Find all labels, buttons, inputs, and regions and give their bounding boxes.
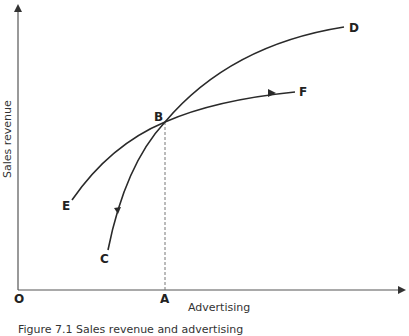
label-c: C — [100, 252, 109, 266]
label-f: F — [299, 85, 307, 99]
curve-ef-arrow-icon — [268, 89, 276, 97]
curve-ef — [72, 92, 295, 200]
label-d: D — [349, 21, 359, 35]
label-e: E — [62, 199, 70, 213]
label-origin: O — [14, 292, 24, 306]
curve-cd — [108, 27, 344, 250]
curve-cd-arrow-icon — [114, 207, 121, 214]
y-axis-label: Sales revenue — [1, 100, 14, 178]
figure-caption: Figure 7.1 Sales revenue and advertising — [18, 323, 243, 336]
x-axis-label: Advertising — [188, 301, 250, 314]
label-b: B — [154, 110, 163, 124]
label-a: A — [160, 292, 170, 306]
